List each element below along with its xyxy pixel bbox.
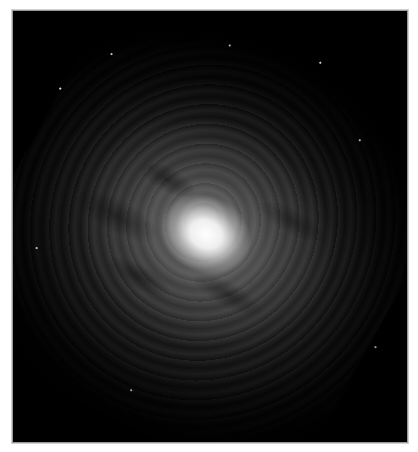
- galaxy-image: [12, 10, 408, 443]
- background-stars: [13, 11, 407, 442]
